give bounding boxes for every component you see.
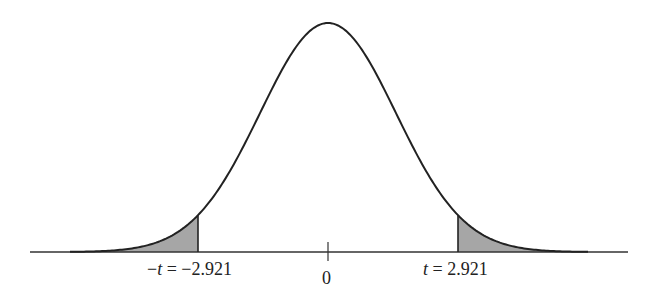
- center-zero-label: 0: [322, 268, 331, 288]
- right-critical-label: t = 2.921: [423, 259, 488, 279]
- left-tail-shaded-region: [70, 215, 198, 252]
- left-critical-label: −t = −2.921: [147, 259, 232, 279]
- t-distribution-diagram: −t = −2.921 0 t = 2.921: [0, 0, 660, 298]
- right-tail-shaded-region: [458, 215, 588, 252]
- bell-curve: [70, 23, 588, 252]
